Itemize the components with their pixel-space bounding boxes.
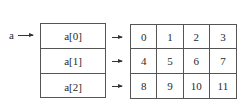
grid-cell: 4	[131, 49, 157, 73]
row-2-arrow-icon	[112, 86, 122, 87]
grid-cell: 6	[184, 49, 210, 73]
pointer-arrow-icon	[18, 35, 33, 36]
element-grid: 0 1 2 3 4 5 6 7 8 9 10 11	[130, 24, 237, 99]
pointer-label-a: a	[9, 29, 14, 41]
grid-cell: 1	[157, 25, 183, 49]
grid-cell: 5	[157, 49, 183, 73]
row-pointer-0: a[0]	[41, 24, 105, 49]
grid-cell: 8	[131, 74, 157, 98]
grid-cell: 0	[131, 25, 157, 49]
row-pointer-array: a[0] a[1] a[2]	[40, 23, 106, 98]
row-1-arrow-icon	[112, 61, 122, 62]
row-pointer-2: a[2]	[41, 74, 105, 99]
grid-cell: 10	[184, 74, 210, 98]
row-0-arrow-icon	[112, 37, 122, 38]
grid-cell: 9	[157, 74, 183, 98]
grid-cell: 3	[210, 25, 236, 49]
grid-cell: 11	[210, 74, 236, 98]
grid-cell: 2	[184, 25, 210, 49]
row-pointer-1: a[1]	[41, 49, 105, 74]
grid-cell: 7	[210, 49, 236, 73]
